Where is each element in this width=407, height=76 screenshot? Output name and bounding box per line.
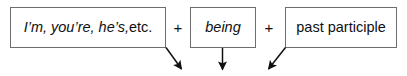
formula-diagram: I’m, you’re, he’s, etc. + being + past p… <box>0 0 407 76</box>
arrow-group <box>0 0 407 76</box>
arrow-from-subject-box <box>166 48 182 70</box>
arrow-from-past-participle-box <box>269 48 286 70</box>
